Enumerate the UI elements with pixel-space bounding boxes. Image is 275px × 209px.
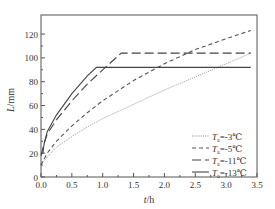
y-tick-label: 40 (29, 125, 39, 135)
legend-label: Ta=-5℃ (212, 144, 242, 155)
legend-label: Ta=-3℃ (212, 132, 242, 143)
legend-label: Ta=-13℃ (212, 168, 247, 179)
y-tick-label: 60 (29, 101, 39, 111)
x-tick-label: 1.0 (97, 180, 109, 190)
x-tick-label: 2.5 (190, 180, 202, 190)
y-axis-label: L/mm (5, 88, 16, 113)
y-tick-label: 80 (29, 77, 39, 87)
x-axis-label: t/h (144, 194, 155, 205)
x-tick-label: 3.5 (251, 180, 263, 190)
x-tick-label: 3.0 (221, 180, 233, 190)
y-tick-label: 120 (25, 30, 39, 40)
y-axis-ticks: 020406080100120 (25, 30, 46, 183)
x-tick-label: 0.5 (66, 180, 78, 190)
y-tick-label: 20 (29, 149, 39, 159)
legend: Ta=-3℃Ta=-5℃Ta=-11℃Ta=-13℃ (192, 132, 247, 179)
y-tick-label: 100 (25, 53, 39, 63)
x-tick-label: 1.5 (128, 180, 140, 190)
legend-label: Ta=-11℃ (212, 156, 247, 167)
x-tick-label: 0.0 (35, 180, 47, 190)
line-chart: 020406080100120 0.00.51.01.52.02.53.03.5… (0, 0, 275, 209)
x-tick-label: 2.0 (159, 180, 171, 190)
